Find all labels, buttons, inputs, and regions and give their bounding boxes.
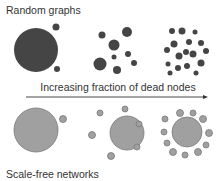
node-circle [94,58,107,71]
node-circle [168,71,173,76]
scale-free-stage-1 [14,108,67,152]
node-circle [169,28,175,34]
arrow-label: Increasing fraction of dead nodes [40,81,195,93]
random-graph-stage-2 [94,27,138,74]
scale-free-stage-2 [89,106,145,160]
node-circle [14,28,58,72]
node-circle [198,40,204,46]
node-circle [97,110,103,116]
random-graphs-clusters [14,24,209,76]
direction-arrow-icon [26,95,208,99]
random-graph-stage-1 [14,24,60,73]
node-circle [176,53,183,60]
node-circle [171,41,178,48]
node-circle [161,129,167,135]
node-circle [183,49,189,55]
node-circle [166,62,171,67]
node-circle [99,32,106,39]
node-circle [112,55,117,60]
node-circle [131,60,137,66]
network-attack-diagram: Random graphs Increasing fraction of dea… [0,0,222,181]
random-graph-stage-3 [164,28,209,76]
node-circle [89,132,96,139]
node-circle [164,47,170,53]
node-circle [203,48,209,54]
node-circle [203,142,209,148]
node-circle [122,27,132,37]
node-circle [190,51,197,58]
node-circle [162,116,168,122]
node-circle [54,66,60,72]
node-circle [60,116,67,123]
node-circle [14,108,58,152]
node-circle [172,117,202,147]
node-circle [194,71,199,76]
scale-free-stage-3 [161,110,213,159]
node-circle [193,30,198,35]
node-circle [113,66,121,74]
node-circle [195,149,202,156]
node-circle [182,152,188,158]
node-circle [177,110,184,117]
node-circle [53,24,60,31]
node-circle [175,65,181,71]
node-circle [184,63,190,69]
node-circle [122,106,128,112]
node-circle [109,40,120,51]
node-circle [200,116,207,123]
node-circle [190,110,196,116]
node-circle [206,130,213,137]
node-circle [186,39,192,45]
random-graphs-label: Random graphs [6,4,81,16]
node-circle [108,153,115,160]
node-circle [179,28,186,35]
node-circle [164,140,170,146]
node-circle [170,149,177,156]
node-circle [125,51,131,57]
node-circle [198,60,205,67]
node-circle [134,144,140,150]
scale-free-label: Scale-free networks [6,168,99,180]
scale-free-clusters [14,106,213,160]
node-circle [136,121,142,127]
